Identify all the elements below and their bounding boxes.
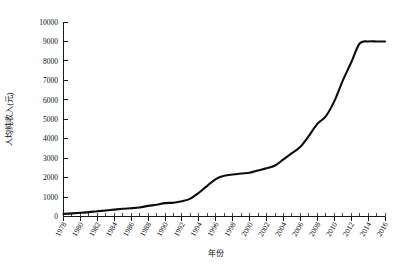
x-tick-label: 1996 bbox=[205, 220, 220, 238]
line-chart: 0100020003000400050006000700080009000100… bbox=[0, 0, 400, 264]
y-tick-label: 10000 bbox=[39, 18, 58, 27]
x-tick-label: 1998 bbox=[222, 220, 237, 238]
x-tick-label: 1988 bbox=[138, 220, 153, 238]
x-tick-label: 1986 bbox=[121, 220, 136, 238]
x-tick-label: 2000 bbox=[239, 220, 254, 238]
y-tick-label: 1000 bbox=[43, 193, 58, 202]
y-tick-label: 5000 bbox=[43, 115, 58, 124]
x-axis-ticks bbox=[64, 217, 386, 222]
y-tick-label: 7000 bbox=[43, 76, 58, 85]
x-tick-label: 2004 bbox=[273, 220, 288, 238]
x-tick-label: 1990 bbox=[155, 220, 170, 238]
x-tick-label: 2014 bbox=[358, 220, 373, 238]
x-tick-label: 2006 bbox=[290, 220, 305, 238]
y-tick-label: 6000 bbox=[43, 96, 58, 105]
x-tick-label: 2010 bbox=[324, 220, 339, 238]
x-axis-tick-labels: 1978198019821984198619881990199219941996… bbox=[53, 220, 390, 238]
x-tick-label: 1980 bbox=[70, 220, 85, 238]
x-tick-label: 1994 bbox=[189, 220, 204, 238]
x-tick-label: 2012 bbox=[341, 220, 356, 238]
y-axis-tick-labels: 0100020003000400050006000700080009000100… bbox=[39, 18, 58, 222]
x-tick-label: 2016 bbox=[375, 220, 390, 238]
x-tick-label: 1992 bbox=[172, 220, 187, 238]
y-axis-title: 人均纯收入(元) bbox=[4, 92, 14, 146]
y-axis-ticks bbox=[64, 22, 69, 217]
chart-container: 0100020003000400050006000700080009000100… bbox=[0, 0, 400, 264]
data-series-line bbox=[64, 41, 386, 214]
y-tick-label: 3000 bbox=[43, 154, 58, 163]
y-tick-label: 8000 bbox=[43, 57, 58, 66]
y-tick-label: 0 bbox=[54, 212, 58, 221]
x-tick-label: 1984 bbox=[104, 220, 119, 238]
x-tick-label: 1978 bbox=[53, 220, 68, 238]
y-tick-label: 9000 bbox=[43, 37, 58, 46]
x-tick-label: 1982 bbox=[87, 220, 102, 238]
x-tick-label: 2008 bbox=[307, 220, 322, 238]
x-axis-title: 年份 bbox=[208, 248, 224, 258]
x-axis-minor-ticks bbox=[64, 213, 386, 217]
x-tick-label: 2002 bbox=[256, 220, 271, 238]
y-tick-label: 4000 bbox=[43, 134, 58, 143]
y-tick-label: 2000 bbox=[43, 173, 58, 182]
